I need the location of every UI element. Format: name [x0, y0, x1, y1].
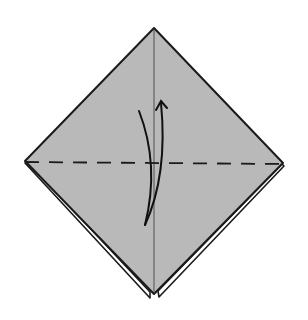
origami-diagram: Square base (preliminary fold) seen as a…	[0, 0, 308, 320]
